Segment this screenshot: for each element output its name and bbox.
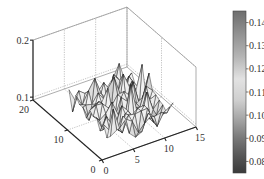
colorbar: 0.140.130.120.110.100.090.08: [233, 11, 264, 173]
z-tick-label: 0.2: [17, 35, 30, 46]
x-axis: [102, 127, 196, 160]
x-tick-label: 15: [195, 132, 205, 143]
colorbar-tick-label: 0.13: [249, 40, 264, 51]
colorbar-tick-label: 0.10: [249, 110, 264, 121]
colorbar-tick-label: 0.11: [249, 87, 264, 98]
x-tick-label: 5: [135, 154, 140, 165]
x-tick-label: 0: [104, 165, 109, 176]
y-tick-label: 20: [19, 104, 29, 115]
colorbar-gradient: [233, 11, 246, 173]
x-tick-label: 10: [164, 143, 174, 154]
colorbar-tick-label: 0.09: [249, 133, 264, 144]
z-tick-label: 0.1: [17, 92, 30, 103]
colorbar-tick-label: 0.14: [249, 17, 264, 28]
surface: [69, 64, 173, 138]
colorbar-tick-label: 0.12: [249, 63, 264, 74]
y-tick-label: 0: [91, 164, 96, 175]
surface-facet: [69, 90, 75, 112]
colorbar-tick-label: 0.08: [249, 156, 264, 167]
colorbar-ticks: 0.140.130.120.110.100.090.08: [246, 17, 264, 167]
y-tick-label: 10: [54, 134, 64, 145]
surface-plot: 051015010200.10.2 0.140.130.120.110.100.…: [0, 0, 264, 179]
